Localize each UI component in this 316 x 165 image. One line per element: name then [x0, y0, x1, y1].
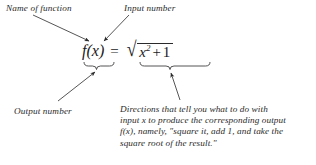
square-root-expression: √ x2+1	[125, 41, 174, 61]
directions-line: input x to produce the corresponding out…	[120, 115, 312, 126]
arrow-directions	[171, 73, 180, 100]
directions-text: Directions that tell you what to do with…	[120, 104, 312, 149]
arrow-output-number	[58, 72, 95, 101]
function-name-fx: f(x)	[82, 42, 104, 60]
arrow-name-of-function	[33, 15, 89, 41]
label-input-number: Input number	[124, 3, 176, 14]
figure-canvas: Name of function Input number f(x) = √ x…	[0, 0, 316, 165]
radicand: x2+1	[137, 43, 173, 61]
label-name-of-function: Name of function	[6, 3, 72, 14]
radicand-constant: 1	[163, 44, 171, 60]
equation: f(x) = √ x2+1	[82, 38, 173, 64]
radical-sign-icon: √	[127, 40, 137, 58]
radicand-plus: +	[150, 44, 162, 60]
radicand-base: x	[139, 44, 146, 60]
equals-sign: =	[110, 43, 118, 60]
directions-line: f(x), namely, "square it, add 1, and tak…	[120, 126, 312, 137]
directions-line: square root of the result."	[120, 138, 312, 149]
label-output-number: Output number	[14, 106, 72, 117]
directions-line: Directions that tell you what to do with	[120, 104, 312, 115]
